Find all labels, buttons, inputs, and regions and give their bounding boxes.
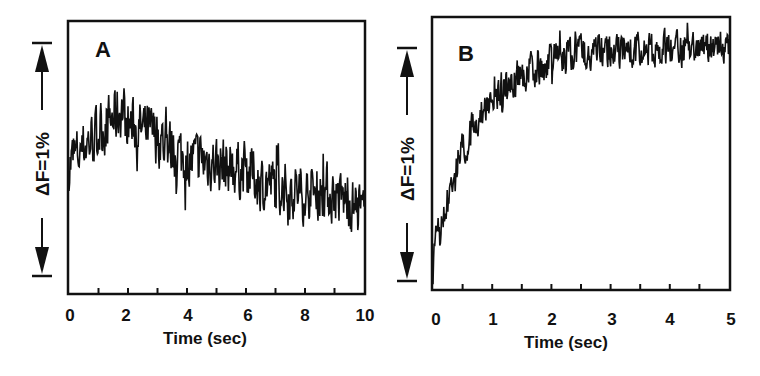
arrow-up-icon [35,45,49,72]
panel-b-scale-label: ΔF=1% [397,137,418,201]
panel-a-x-axis-title: Time (sec) [163,329,247,348]
panel-a-x-tick-label: 6 [243,306,252,325]
panel-a-trace [69,88,364,232]
panel-b-frame [432,17,730,290]
panel-b-x-axis-title: Time (sec) [524,333,608,352]
panel-b-x-tick-label: 4 [665,310,675,329]
panel-a-x-tick-label: 0 [65,306,74,325]
panel-b-x-tick-label: 0 [431,310,440,329]
panel-b-scale-bar: ΔF=1% [397,48,418,281]
panel-b-x-tick-label: 2 [547,310,556,329]
panel-a-x-tick-label: 8 [300,306,309,325]
panel-b-x-tick-label: 5 [726,310,735,329]
panel-b-x-tick-label: 3 [607,310,616,329]
panel-b-letter: B [458,41,474,66]
arrow-down-icon [35,247,49,274]
panel-b-x-tick-label: 1 [488,310,497,329]
panel-a-x-tick-label: 4 [183,306,193,325]
figure: A ΔF=1% 0 2 4 6 8 10 Time (sec) B [0,0,760,376]
arrow-up-icon [400,50,414,77]
panel-a-scale-bar: ΔF=1% [32,43,53,276]
panel-a-x-tick-labels: 0 2 4 6 8 10 [65,306,374,325]
panel-b-trace [433,23,729,285]
arrow-down-icon [400,252,414,279]
panel-a-x-tick-label: 2 [121,306,130,325]
panel-a-letter: A [95,37,111,62]
panel-b-x-tick-labels: 0 1 2 3 4 5 [431,310,735,329]
panel-a: A ΔF=1% 0 2 4 6 8 10 Time (sec) [32,21,374,348]
panel-b: B ΔF=1% 0 1 2 3 4 5 Time (sec) [397,17,736,352]
panel-a-scale-label: ΔF=1% [32,132,53,196]
panel-a-x-tick-label: 10 [356,306,375,325]
